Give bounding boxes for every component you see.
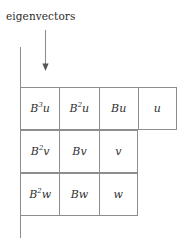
down-arrow-glyph	[40, 30, 51, 72]
vector-symbol: u	[119, 102, 126, 115]
math-token: v	[115, 145, 121, 158]
math-token: w	[114, 188, 123, 201]
eigenvectors-label: eigenvectors	[6, 10, 75, 22]
vector-symbol: v	[43, 145, 49, 158]
basis-cell-Bv: Bv	[59, 130, 98, 173]
down-arrow-icon	[40, 30, 51, 72]
basis-cell-u: u	[138, 87, 177, 130]
vector-symbol: w	[114, 188, 123, 201]
vector-symbol: v	[80, 145, 86, 158]
vector-symbol: w	[79, 188, 88, 201]
operator-symbol: B	[70, 102, 78, 115]
basis-cell-B2w: B2w	[20, 173, 59, 216]
vector-symbol: v	[115, 145, 121, 158]
math-token: B2w	[29, 188, 51, 201]
math-token: Bu	[111, 102, 126, 115]
basis-grid: B3uB2uBuu B2vBvv B2wBww	[20, 87, 177, 216]
vector-symbol: u	[82, 102, 89, 115]
math-token: B2v	[31, 145, 50, 158]
operator-symbol: B	[111, 102, 119, 115]
vector-symbol: u	[43, 102, 50, 115]
math-token: Bw	[71, 188, 89, 201]
basis-cell-Bu: Bu	[99, 87, 138, 130]
eigenvector-jordan-basis-diagram: eigenvectors B3uB2uBuu B2vBvv B2wBww	[0, 0, 192, 246]
vector-symbol: u	[154, 102, 161, 115]
operator-symbol: B	[31, 145, 39, 158]
table-row: B2wBww	[20, 173, 138, 216]
basis-cell-B2u: B2u	[59, 87, 98, 130]
math-token: B2u	[70, 102, 90, 115]
basis-cell-B2v: B2v	[20, 130, 59, 173]
basis-cell-B3u: B3u	[20, 87, 59, 130]
table-row: B3uB2uBuu	[20, 87, 177, 130]
table-row: B2vBvv	[20, 130, 138, 173]
operator-symbol: B	[71, 188, 79, 201]
basis-cell-Bw: Bw	[59, 173, 98, 216]
math-token: B3u	[30, 102, 50, 115]
math-token: Bv	[72, 145, 86, 158]
basis-cell-v: v	[99, 130, 138, 173]
vector-symbol: w	[42, 188, 51, 201]
basis-cell-w: w	[99, 173, 138, 216]
math-token: u	[154, 102, 161, 115]
